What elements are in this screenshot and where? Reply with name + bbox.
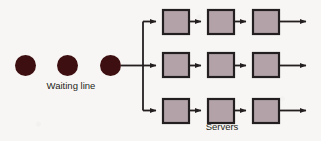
server-box: [253, 99, 279, 123]
waiting-line-label: Waiting line: [47, 80, 96, 91]
server-box: [253, 53, 279, 77]
server-box: [253, 10, 279, 34]
servers-label: Servers: [206, 121, 239, 132]
customer-circle: [15, 55, 36, 76]
servers-group: [163, 10, 279, 123]
server-box: [208, 99, 234, 123]
server-box: [208, 10, 234, 34]
server-box: [163, 10, 189, 34]
server-box: [208, 53, 234, 77]
server-box: [163, 99, 189, 123]
customer-circle: [100, 55, 121, 76]
customer-circle: [57, 55, 78, 76]
server-box: [163, 53, 189, 77]
waiting-line-group: [15, 55, 121, 76]
queuing-system-diagram: Waiting line Servers: [0, 0, 321, 141]
diagram-svg: Waiting line Servers: [0, 0, 321, 141]
